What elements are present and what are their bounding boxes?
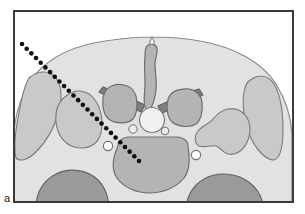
needle-dot — [52, 74, 57, 79]
needle-dot — [57, 79, 62, 84]
illustration-content — [14, 11, 293, 210]
needle-dot — [62, 84, 67, 89]
needle-dot — [20, 42, 25, 47]
vessel-right — [191, 150, 200, 159]
needle-dot — [34, 56, 39, 61]
needle-dot — [109, 131, 114, 136]
needle-dot — [118, 140, 123, 145]
needle-dot — [85, 107, 90, 112]
needle-dot — [95, 117, 100, 122]
needle-dot — [71, 93, 76, 98]
spinal-canal — [140, 108, 165, 133]
articular-process-left — [103, 84, 137, 123]
needle-dot — [123, 145, 128, 150]
panel-label: a — [4, 192, 10, 204]
needle-dot — [104, 126, 109, 131]
vessel-paracentral-left — [129, 125, 137, 133]
needle-dot — [38, 60, 43, 65]
articular-process-right — [167, 89, 202, 127]
needle-dot — [137, 159, 142, 164]
needle-dot — [113, 135, 118, 140]
anatomy-illustration — [0, 0, 305, 214]
needle-dot — [24, 46, 29, 51]
needle-dot — [67, 89, 72, 94]
needle-dot — [81, 103, 86, 108]
needle-dot — [43, 65, 48, 70]
needle-dot — [132, 154, 137, 159]
needle-dot — [76, 98, 81, 103]
vessel-left — [103, 141, 112, 150]
vessel-paracentral-right — [161, 127, 169, 135]
needle-dot — [127, 149, 132, 154]
figure-container: a — [0, 0, 305, 214]
needle-dot — [29, 51, 34, 56]
needle-dot — [90, 112, 95, 117]
needle-dot — [99, 121, 104, 126]
needle-dot — [48, 70, 53, 75]
